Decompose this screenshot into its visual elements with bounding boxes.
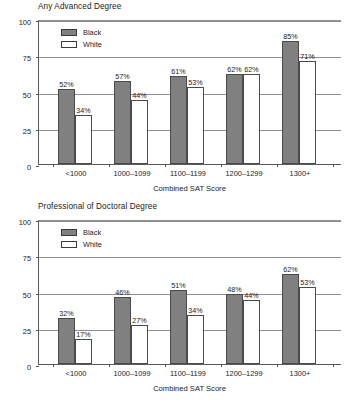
bar-white: 44% bbox=[243, 300, 260, 364]
x-category-label: 1000–1099 bbox=[114, 369, 151, 378]
bar-value-label: 62% bbox=[283, 265, 297, 274]
y-tick-label-0: 0 bbox=[27, 363, 31, 372]
x-tick-mark bbox=[165, 164, 166, 167]
x-category-label: 1300+ bbox=[290, 369, 311, 378]
x-tick-mark bbox=[277, 164, 278, 167]
x-tick-mark bbox=[53, 364, 54, 367]
bar-value-label: 53% bbox=[188, 78, 202, 87]
bar-value-label: 46% bbox=[115, 288, 129, 297]
x-tick-mark bbox=[109, 164, 110, 167]
y-tick-label-50: 50 bbox=[23, 290, 31, 299]
y-tick-label-0: 0 bbox=[27, 163, 31, 172]
bar-group: 32% 17% <1000 bbox=[53, 221, 99, 364]
bar-value-label: 61% bbox=[171, 67, 185, 76]
bar-group: 85% 71% 1300+ bbox=[277, 21, 323, 164]
plot-area: 100 75 50 25 0 Black bbox=[38, 20, 341, 165]
bar-value-label: 44% bbox=[244, 291, 258, 300]
y-tick-mark-100: 100 bbox=[36, 21, 39, 22]
bar-black: 62% bbox=[282, 274, 299, 364]
bar-black: 57% bbox=[114, 81, 131, 164]
x-category-label: 1200–1299 bbox=[226, 169, 263, 178]
y-tick-mark-0: 0 bbox=[36, 166, 39, 167]
x-category-label: <1000 bbox=[66, 169, 87, 178]
bar-white: 53% bbox=[299, 287, 316, 364]
chart-title: Any Advanced Degree bbox=[38, 2, 121, 11]
bar-group: 57% 44% 1000–1099 bbox=[109, 21, 155, 164]
x-axis-title: Combined SAT Score bbox=[38, 384, 341, 393]
bar-group: 62% 53% 1300+ bbox=[277, 221, 323, 364]
figure-page: Any Advanced Degree Percentage of Gradua… bbox=[0, 0, 349, 400]
bar-value-label: 32% bbox=[59, 309, 73, 318]
chart-professional-doctoral-degree: Professional of Doctoral Degree Percenta… bbox=[0, 200, 349, 400]
bar-black: 85% bbox=[282, 41, 299, 164]
bar-group: 46% 27% 1000–1099 bbox=[109, 221, 155, 364]
bar-white: 34% bbox=[187, 315, 204, 364]
x-tick-mark bbox=[221, 164, 222, 167]
bar-white: 27% bbox=[131, 325, 148, 364]
bar-value-label: 71% bbox=[300, 52, 314, 61]
bar-black: 46% bbox=[114, 297, 131, 364]
x-tick-mark bbox=[165, 364, 166, 367]
y-tick-label-75: 75 bbox=[23, 54, 31, 63]
x-tick-mark bbox=[53, 164, 54, 167]
bar-black: 61% bbox=[170, 76, 187, 165]
bar-group: 61% 53% 1100–1199 bbox=[165, 21, 211, 164]
bar-black: 48% bbox=[226, 294, 243, 364]
x-tick-mark-end bbox=[333, 364, 334, 367]
chart-title: Professional of Doctoral Degree bbox=[38, 202, 157, 211]
y-tick-mark-25: 25 bbox=[36, 330, 39, 331]
x-category-label: 1000–1099 bbox=[114, 169, 151, 178]
bar-value-label: 57% bbox=[115, 72, 129, 81]
x-category-label: <1000 bbox=[66, 369, 87, 378]
bar-group: 52% 34% <1000 bbox=[53, 21, 99, 164]
y-tick-mark-75: 75 bbox=[36, 257, 39, 258]
y-tick-mark-25: 25 bbox=[36, 130, 39, 131]
plot-area: 100 75 50 25 0 Black bbox=[38, 220, 341, 365]
y-tick-label-25: 25 bbox=[23, 126, 31, 135]
bar-white: 71% bbox=[299, 61, 316, 164]
bar-value-label: 17% bbox=[76, 330, 90, 339]
bar-white: 17% bbox=[75, 339, 92, 364]
y-tick-label-25: 25 bbox=[23, 326, 31, 335]
y-tick-mark-50: 50 bbox=[36, 294, 39, 295]
y-tick-label-100: 100 bbox=[19, 218, 31, 227]
bar-black: 52% bbox=[58, 89, 75, 164]
bar-value-label: 34% bbox=[76, 106, 90, 115]
x-category-label: 1300+ bbox=[290, 169, 311, 178]
bar-black: 51% bbox=[170, 290, 187, 364]
x-axis-title: Combined SAT Score bbox=[38, 184, 341, 193]
bar-value-label: 44% bbox=[132, 91, 146, 100]
bar-value-label: 62% bbox=[244, 65, 258, 74]
bar-white: 34% bbox=[75, 115, 92, 164]
x-tick-mark bbox=[109, 364, 110, 367]
x-tick-mark bbox=[277, 364, 278, 367]
y-tick-mark-75: 75 bbox=[36, 57, 39, 58]
x-category-label: 1200–1299 bbox=[226, 369, 263, 378]
bar-white: 53% bbox=[187, 87, 204, 164]
bar-value-label: 48% bbox=[227, 285, 241, 294]
bar-value-label: 51% bbox=[171, 281, 185, 290]
chart-any-advanced-degree: Any Advanced Degree Percentage of Gradua… bbox=[0, 0, 349, 200]
x-category-label: 1100–1199 bbox=[170, 169, 206, 178]
y-tick-label-50: 50 bbox=[23, 90, 31, 99]
bar-black: 32% bbox=[58, 318, 75, 364]
x-category-label: 1100–1199 bbox=[170, 369, 206, 378]
bar-white: 44% bbox=[131, 100, 148, 164]
bar-group: 51% 34% 1100–1199 bbox=[165, 221, 211, 364]
y-tick-mark-100: 100 bbox=[36, 221, 39, 222]
bar-group: 62% 62% 1200–1299 bbox=[221, 21, 267, 164]
bar-value-label: 27% bbox=[132, 316, 146, 325]
bar-white: 62% bbox=[243, 74, 260, 164]
bar-value-label: 52% bbox=[59, 80, 73, 89]
y-tick-label-75: 75 bbox=[23, 254, 31, 263]
bar-value-label: 34% bbox=[188, 306, 202, 315]
x-tick-mark-end bbox=[333, 164, 334, 167]
bar-black: 62% bbox=[226, 74, 243, 164]
x-tick-mark bbox=[221, 364, 222, 367]
bar-value-label: 62% bbox=[227, 65, 241, 74]
bar-group: 48% 44% 1200–1299 bbox=[221, 221, 267, 364]
y-tick-label-100: 100 bbox=[19, 18, 31, 27]
bar-value-label: 53% bbox=[300, 278, 314, 287]
y-tick-mark-0: 0 bbox=[36, 366, 39, 367]
y-tick-mark-50: 50 bbox=[36, 94, 39, 95]
